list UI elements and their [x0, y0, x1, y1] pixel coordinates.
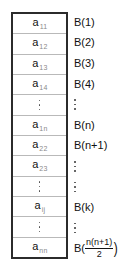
array-element-label: a11 — [33, 17, 47, 28]
array-element-label: a13 — [32, 58, 47, 69]
vertical-ellipsis — [74, 223, 76, 234]
b-label-text: B(n+1) — [74, 140, 107, 151]
b-label-ellipsis — [74, 156, 138, 177]
array-element-subscript: 1n — [39, 125, 47, 132]
array-element-subscript: 12 — [39, 43, 47, 50]
array-table: a11a12a13a14a1na22a23aijann — [11, 12, 68, 259]
vertical-ellipsis — [74, 99, 76, 110]
vertical-ellipsis — [74, 161, 76, 172]
b-label-text: B(4) — [74, 79, 95, 90]
b-label-row: B(2) — [74, 33, 138, 54]
vertical-ellipsis — [74, 182, 76, 193]
array-element-label: a12 — [32, 37, 47, 48]
b-label-suffix: ) — [114, 240, 118, 257]
b-label-fraction: B(n(n+1)2) — [74, 238, 119, 260]
array-element-base: a — [32, 77, 38, 89]
array-cell: a14 — [13, 75, 66, 95]
array-element-base: a — [32, 36, 38, 48]
b-label-text: B(1) — [74, 17, 95, 28]
b-label-row: B(4) — [74, 74, 138, 95]
b-label-ellipsis — [74, 177, 138, 198]
b-label-row: B(1) — [74, 12, 138, 33]
array-element-subscript: 23 — [39, 165, 47, 172]
array-element-subscript: ij — [42, 206, 46, 213]
array-element-label: a1n — [32, 119, 47, 130]
array-cell-ellipsis — [13, 177, 66, 197]
array-element-subscript: 13 — [39, 64, 47, 71]
array-element-label: a23 — [32, 159, 47, 170]
array-element-base: a — [32, 158, 38, 170]
array-element-base: a — [33, 16, 39, 28]
array-element-base: a — [32, 57, 38, 69]
fraction-numerator: n(n+1) — [85, 238, 113, 249]
array-element-label: ann — [32, 241, 47, 252]
b-label-text: B(2) — [74, 37, 95, 48]
array-index-figure: a11a12a13a14a1na22a23aijann B(1)B(2)B(3)… — [0, 0, 138, 273]
array-element-base: a — [32, 138, 38, 150]
array-element-label: a14 — [32, 78, 47, 89]
vertical-ellipsis — [39, 222, 41, 233]
b-label-row: B(3) — [74, 53, 138, 74]
b-label-column: B(1)B(2)B(3)B(4)B(n)B(n+1)B(k)B(n(n+1)2) — [74, 12, 138, 259]
b-label-text: B(k) — [74, 202, 94, 213]
b-label-prefix: B( — [74, 243, 85, 254]
array-element-base: a — [35, 199, 41, 211]
vertical-ellipsis — [39, 100, 41, 111]
array-element-subscript: 11 — [40, 23, 48, 30]
b-label-ellipsis — [74, 218, 138, 239]
array-cell: a22 — [13, 136, 66, 156]
array-element-base: a — [32, 118, 38, 130]
array-element-subscript: 14 — [39, 84, 47, 91]
b-label-ellipsis — [74, 94, 138, 115]
array-element-label: aij — [35, 200, 45, 211]
array-element-subscript: nn — [39, 247, 47, 254]
array-cell: a11 — [13, 14, 66, 34]
array-cell: a12 — [13, 34, 66, 54]
array-cell: aij — [13, 197, 66, 217]
vertical-ellipsis — [39, 181, 41, 192]
array-element-label: a22 — [32, 139, 47, 150]
b-label-text: B(3) — [74, 58, 95, 69]
array-cell: ann — [13, 238, 66, 257]
b-label-row: B(n(n+1)2) — [74, 238, 138, 259]
fraction-denominator: 2 — [97, 249, 102, 259]
b-label-row: B(n) — [74, 115, 138, 136]
b-label-text: B(n) — [74, 120, 95, 131]
array-element-base: a — [32, 240, 38, 252]
fraction: n(n+1)2 — [85, 238, 113, 260]
b-label-row: B(k) — [74, 197, 138, 218]
array-cell-ellipsis — [13, 95, 66, 115]
b-label-row: B(n+1) — [74, 135, 138, 156]
array-cell: a23 — [13, 156, 66, 176]
array-element-subscript: 22 — [39, 145, 47, 152]
array-cell-ellipsis — [13, 217, 66, 237]
array-cell: a1n — [13, 116, 66, 136]
array-cell: a13 — [13, 55, 66, 75]
